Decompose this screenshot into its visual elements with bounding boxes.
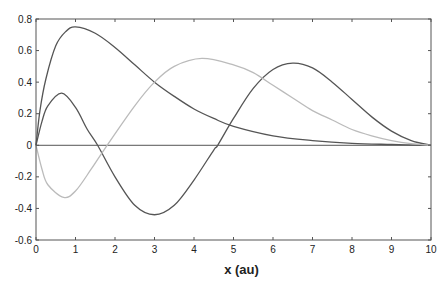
x-tick-label: 2	[112, 244, 118, 255]
x-tick-label: 3	[152, 244, 158, 255]
x-tick-label: 9	[389, 244, 395, 255]
x-tick-label: 4	[191, 244, 197, 255]
line-chart: 012345678910 0.80.60.40.20-0.2-0.4-0.6 x…	[0, 0, 448, 285]
x-axis-title: x (au)	[224, 262, 259, 277]
y-tick-label: 0.6	[18, 45, 32, 56]
y-tick-label: -0.6	[15, 235, 33, 246]
y-tick-label: 0.2	[18, 108, 32, 119]
x-tick-label: 8	[349, 244, 355, 255]
y-tick-label: -0.2	[15, 171, 33, 182]
x-tick-label: 6	[270, 244, 276, 255]
y-tick-label: 0.4	[18, 77, 32, 88]
x-tick-label: 0	[33, 244, 39, 255]
chart-background	[0, 0, 448, 285]
x-tick-label: 10	[425, 244, 437, 255]
y-tick-label: -0.4	[15, 203, 33, 214]
x-tick-label: 7	[310, 244, 316, 255]
x-tick-label: 1	[73, 244, 79, 255]
x-tick-label: 5	[231, 244, 237, 255]
y-tick-label: 0	[26, 140, 32, 151]
y-tick-label: 0.8	[18, 14, 32, 25]
